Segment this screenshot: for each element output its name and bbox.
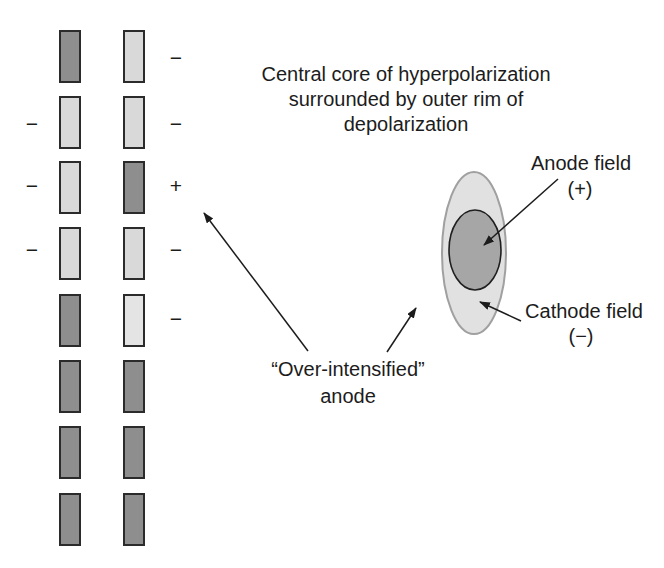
electrode-segment-left bbox=[60, 162, 80, 213]
over-intensified-label-line-2: anode bbox=[320, 385, 376, 407]
electrode-segment-right bbox=[124, 31, 144, 82]
charge-sign-right: − bbox=[170, 46, 182, 69]
electrode-segment-right bbox=[124, 494, 144, 545]
cathode-field-label-text: Cathode field bbox=[525, 300, 643, 322]
cathode-field-label: Cathode field (−) bbox=[525, 300, 643, 347]
electrode-segment-right bbox=[124, 361, 144, 412]
electrode-segment-right bbox=[124, 97, 144, 148]
electrode-segment-left bbox=[60, 228, 80, 279]
charge-sign-left: − bbox=[26, 238, 38, 261]
electrode-segment-left bbox=[60, 31, 80, 82]
electrode-segment-left bbox=[60, 361, 80, 412]
caption-line-1: Central core of hyperpolarization bbox=[261, 63, 550, 85]
electrode-segment-right bbox=[124, 427, 144, 478]
caption-line-2: surrounded by outer rim of bbox=[289, 88, 524, 110]
charge-sign-left: − bbox=[26, 174, 38, 197]
electrode-segment-left bbox=[60, 427, 80, 478]
charge-sign-right: − bbox=[170, 112, 182, 135]
cathode-field-sign: (−) bbox=[569, 325, 594, 347]
anode-field-label: Anode field (+) bbox=[531, 152, 631, 200]
over-intensified-left-arrow bbox=[204, 213, 308, 351]
electrode-segment-left bbox=[60, 97, 80, 148]
anode-field-label-text: Anode field bbox=[531, 152, 631, 174]
figure-stage: −−−−+−−− Central core of hyperpolarizati… bbox=[0, 0, 664, 568]
caption-line-3: depolarization bbox=[344, 113, 469, 135]
electrode-segment-left bbox=[60, 494, 80, 545]
anode-field-sign: (+) bbox=[568, 178, 593, 200]
charge-signs: −−−−+−−− bbox=[26, 46, 182, 330]
electrode-grid bbox=[60, 31, 144, 545]
over-intensified-label-line-1: “Over-intensified” bbox=[271, 358, 424, 380]
charge-sign-right: − bbox=[170, 238, 182, 261]
polarization-diagram: −−−−+−−− Central core of hyperpolarizati… bbox=[0, 0, 664, 568]
electrode-segment-right bbox=[124, 295, 144, 346]
caption: Central core of hyperpolarization surrou… bbox=[261, 63, 550, 135]
over-intensified-right-arrow bbox=[387, 308, 416, 352]
electrode-segment-right bbox=[124, 228, 144, 279]
over-intensified-label: “Over-intensified” anode bbox=[271, 358, 424, 407]
anode-field-ellipse bbox=[449, 210, 501, 290]
electrode-segment-right bbox=[124, 162, 144, 213]
charge-sign-left: − bbox=[26, 112, 38, 135]
electrode-segment-left bbox=[60, 295, 80, 346]
charge-sign-right: − bbox=[170, 307, 182, 330]
charge-sign-right: + bbox=[170, 174, 182, 197]
